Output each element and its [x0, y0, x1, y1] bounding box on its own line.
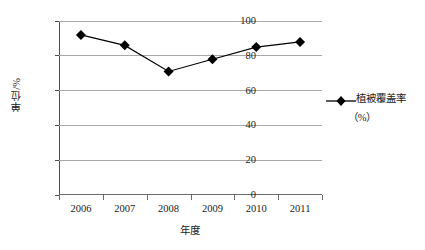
x-axis-tick-label: 2010	[246, 204, 267, 215]
series-vegetation-coverage	[59, 21, 322, 195]
legend-item-vegetation-coverage: 植被覆盖率	[326, 92, 422, 106]
x-axis-tick	[322, 195, 323, 200]
y-axis-title: 单位/%	[12, 78, 30, 112]
x-axis-tick	[278, 195, 279, 200]
diamond-marker-icon	[207, 54, 217, 64]
x-axis-tick-label: 2008	[158, 204, 179, 215]
chart-canvas: 单位/% 020406080100 2006200720082009201020…	[0, 0, 425, 250]
diamond-marker-icon	[76, 30, 86, 40]
legend-label: 植被覆盖率	[356, 94, 406, 105]
diamond-marker-icon	[120, 40, 130, 50]
x-axis-tick-label: 2011	[290, 204, 311, 215]
x-axis-tick	[234, 195, 235, 200]
x-axis-tick-label: 2006	[70, 204, 91, 215]
legend: 植被覆盖率 （%）	[326, 92, 422, 124]
x-axis-tick	[103, 195, 104, 200]
x-axis-tick	[147, 195, 148, 200]
x-axis-tick-label: 2007	[114, 204, 135, 215]
x-axis-title: 年度	[0, 226, 380, 237]
plot-area: 020406080100 200620072008200920102011	[59, 21, 322, 195]
series-line	[81, 35, 300, 72]
x-axis-tick	[191, 195, 192, 200]
diamond-marker-icon	[164, 66, 174, 76]
x-axis-tick	[59, 195, 60, 200]
diamond-marker-icon	[251, 42, 261, 52]
legend-label-unit: （%）	[326, 113, 398, 124]
diamond-marker-icon	[295, 37, 305, 47]
x-axis-tick-label: 2009	[202, 204, 223, 215]
legend-diamond-icon	[326, 93, 356, 105]
